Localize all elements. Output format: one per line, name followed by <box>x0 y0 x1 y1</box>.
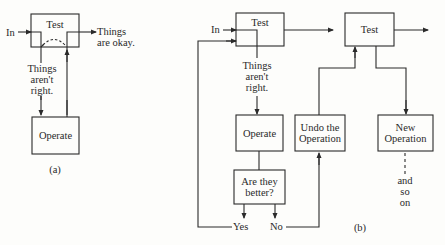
b-question-2: better? <box>234 187 285 198</box>
a-not-right-1: Things <box>22 63 62 74</box>
a-not-right-3: right. <box>22 85 62 96</box>
b-continue-2: so <box>390 186 420 197</box>
b-new-op-2: Operation <box>378 133 433 144</box>
b-test1-label: Test <box>240 17 280 28</box>
b-caption: (b) <box>345 222 375 233</box>
a-caption: (a) <box>40 164 70 175</box>
b-test2-label: Test <box>345 24 394 35</box>
a-not-right-2: aren't <box>22 74 62 85</box>
b-undo-2: Operation <box>295 133 345 144</box>
a-test-label: Test <box>37 19 73 30</box>
a-operate-label: Operate <box>32 130 79 141</box>
b-new-op-1: New <box>378 122 433 133</box>
b-not-right-3: right. <box>237 82 277 93</box>
diagram-canvas: Test In Things are okay. Things aren't r… <box>0 0 445 245</box>
b-in-label: In <box>211 24 220 35</box>
b-no-label: No <box>270 221 283 232</box>
b-continue-3: on <box>390 197 420 208</box>
b-undo-1: Undo the <box>295 122 345 133</box>
a-in-label: In <box>6 27 15 38</box>
a-ok-label-2: are okay. <box>97 37 135 48</box>
b-operate-label: Operate <box>236 128 283 139</box>
b-yes-label: Yes <box>233 221 248 232</box>
b-not-right-2: aren't <box>237 71 277 82</box>
a-ok-label-1: Things <box>97 26 126 37</box>
b-not-right-1: Things <box>237 60 277 71</box>
b-question-1: Are they <box>234 176 285 187</box>
b-continue-1: and <box>390 175 420 186</box>
